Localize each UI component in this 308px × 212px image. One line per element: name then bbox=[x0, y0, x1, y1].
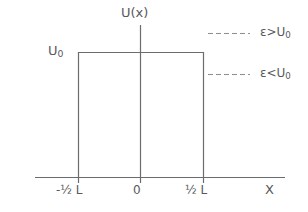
legend-label-energy-above: ε>U0 bbox=[260, 26, 291, 40]
barrier-height-label-base: U bbox=[48, 43, 58, 58]
x-axis-tick-label-left: -½ L bbox=[56, 184, 82, 196]
x-axis-tick-label-zero: 0 bbox=[133, 184, 141, 196]
legend-label-energy-below: ε<U0 bbox=[260, 67, 291, 81]
legend-reference-subscript-above: 0 bbox=[285, 30, 291, 40]
legend-relation-above: > bbox=[267, 25, 277, 39]
barrier-height-label-subscript: 0 bbox=[58, 48, 64, 59]
legend-reference-subscript-below: 0 bbox=[285, 71, 291, 81]
y-axis-title: U(x) bbox=[121, 6, 148, 19]
barrier-height-label: U0 bbox=[48, 44, 63, 58]
x-axis-title: X bbox=[265, 183, 274, 196]
potential-barrier-figure: U(x) U0 -½ L 0 ½ L X ε>U0 ε<U0 bbox=[0, 0, 308, 212]
x-axis-tick-label-right: ½ L bbox=[185, 184, 207, 196]
legend-relation-below: < bbox=[267, 66, 277, 80]
